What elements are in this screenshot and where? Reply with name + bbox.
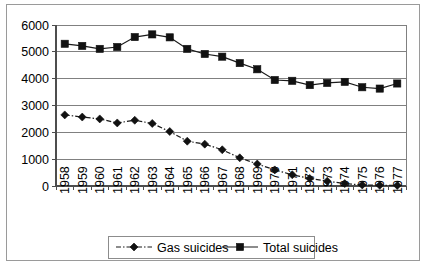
data-point: [113, 119, 121, 127]
data-point: [61, 111, 69, 119]
data-point: [306, 82, 313, 89]
x-tick-label: 1976: [373, 166, 387, 194]
x-tick-label: 1968: [233, 166, 247, 194]
x-tick-label: 1965: [181, 166, 195, 194]
y-tick-label: 6000: [21, 19, 49, 33]
x-tick-label: 1961: [111, 166, 125, 194]
data-point: [341, 78, 348, 85]
chart-legend: Gas suicidesTotal suicides: [108, 236, 338, 258]
legend-label-total-suicides: Total suicides: [263, 241, 338, 255]
y-tick-label: 5000: [21, 45, 49, 59]
x-tick-label: 1977: [391, 166, 405, 194]
data-point: [271, 76, 278, 83]
y-tick-label: 2000: [21, 126, 49, 140]
legend-marker-total: [236, 243, 243, 250]
data-point: [201, 50, 208, 57]
data-point: [201, 140, 209, 148]
data-point: [359, 84, 366, 91]
chart-plot-area: 0100020003000400050006000195819591960196…: [7, 5, 421, 262]
data-point: [61, 40, 68, 47]
x-tick-label: 1958: [58, 166, 72, 194]
data-point: [131, 116, 139, 124]
chart-frame: 0100020003000400050006000195819591960196…: [6, 4, 420, 261]
x-tick-label: 1967: [216, 166, 230, 194]
y-tick-label: 0: [42, 180, 49, 194]
x-tick-label: 1962: [128, 166, 142, 194]
x-axis-labels: 1958195919601961196219631964196519661967…: [56, 166, 406, 194]
x-tick-label: 1959: [76, 166, 90, 194]
data-point: [149, 31, 156, 38]
data-point: [96, 115, 104, 123]
data-point: [166, 128, 174, 136]
data-point: [394, 80, 401, 87]
legend-label-gas-suicides: Gas suicides: [157, 241, 229, 255]
data-point: [376, 85, 383, 92]
data-point: [184, 45, 191, 52]
x-tick-label: 1969: [251, 166, 265, 194]
x-tick-label: 1975: [356, 166, 370, 194]
x-tick-label: 1966: [198, 166, 212, 194]
y-tick-label: 1000: [21, 153, 49, 167]
data-point: [324, 79, 331, 86]
data-point: [254, 66, 261, 73]
data-point: [219, 53, 226, 60]
x-tick-label: 1971: [286, 166, 300, 194]
y-tick-label: 4000: [21, 72, 49, 86]
line-chart: 0100020003000400050006000195819591960196…: [7, 5, 421, 262]
data-point: [131, 33, 138, 40]
data-point: [218, 146, 226, 154]
data-point: [114, 43, 121, 50]
x-tick-label: 1960: [93, 166, 107, 194]
data-point: [96, 45, 103, 52]
data-point: [166, 34, 173, 41]
data-point: [236, 60, 243, 67]
x-tick-label: 1964: [163, 166, 177, 194]
data-point: [78, 113, 86, 121]
y-tick-label: 3000: [21, 99, 49, 113]
x-tick-label: 1963: [146, 166, 160, 194]
data-point: [236, 154, 244, 162]
data-point: [79, 42, 86, 49]
data-point: [183, 137, 191, 145]
data-point: [148, 119, 156, 127]
data-point: [289, 77, 296, 84]
